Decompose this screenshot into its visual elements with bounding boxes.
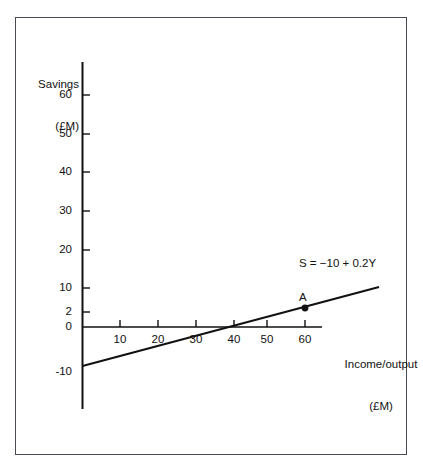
y-tick-label-10: 10 — [38, 281, 72, 294]
x-tick-label-10: 10 — [105, 333, 135, 346]
y-tick-label-2: 2 — [38, 305, 72, 318]
x-tick-label-60: 60 — [290, 333, 320, 346]
y-tick-label-0: 0 — [38, 320, 72, 333]
x-tick-label-30: 30 — [181, 333, 211, 346]
y-tick-label-30: 30 — [38, 204, 72, 217]
point-a-marker — [302, 305, 309, 312]
savings-equation-label: S = −10 + 0.2Y — [299, 257, 376, 269]
x-tick-label-50: 50 — [252, 333, 282, 346]
x-tick-label-20: 20 — [143, 333, 173, 346]
figure-container: Savings (£M) Income/output (£M) 60 50 40… — [0, 0, 423, 470]
x-axis-title-line1: Income/output — [326, 357, 423, 371]
point-a-label: A — [299, 291, 307, 303]
y-axis-title: Savings (£M) — [21, 49, 79, 161]
y-tick-label-40: 40 — [38, 165, 72, 178]
y-tick-label-neg10: -10 — [38, 365, 72, 378]
y-tick-label-50: 50 — [38, 127, 72, 140]
y-tick-label-20: 20 — [38, 243, 72, 256]
y-tick-label-60: 60 — [38, 88, 72, 101]
x-axis-title-line2: (£M) — [326, 399, 423, 413]
x-axis-title: Income/output (£M) — [326, 329, 423, 441]
y-axis-ticks — [83, 95, 91, 312]
x-axis-ticks — [120, 320, 305, 327]
x-tick-label-40: 40 — [219, 333, 249, 346]
